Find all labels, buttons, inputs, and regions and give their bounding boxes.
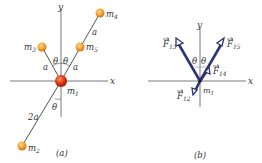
label-m3: m3 <box>24 42 36 53</box>
origin-dot-b <box>198 79 201 82</box>
caption-b: (b) <box>194 150 206 160</box>
y-axis-label-a: y <box>57 2 64 12</box>
length-a-upper: a <box>92 27 97 37</box>
label-m2: m2 <box>28 143 40 154</box>
label-f14: F14 <box>212 66 227 77</box>
label-m1-b: m1 <box>203 86 214 96</box>
arrowhead-f12 <box>192 88 197 95</box>
theta-left-a: θ <box>53 56 58 66</box>
label-f12: F12 <box>176 91 191 102</box>
label-m5: m5 <box>86 42 98 53</box>
arrowhead-f15 <box>217 38 224 46</box>
caption-a: (a) <box>56 148 68 158</box>
y-axis-label-b: y <box>196 20 203 30</box>
arrowhead-f14 <box>205 67 210 74</box>
arrowhead-f13 <box>176 38 183 46</box>
label-m4: m4 <box>106 9 118 20</box>
label-f15: F15 <box>226 39 241 50</box>
figure: x y θ θ θ a a a 2a m4 m5 m3 m1 m2 (a) x … <box>0 0 262 163</box>
theta-right-a: θ <box>63 56 68 66</box>
mass-m4 <box>96 9 105 18</box>
x-axis-label-b: x <box>248 76 253 86</box>
theta-right-b: θ <box>201 56 206 66</box>
length-a-right: a <box>73 62 78 72</box>
theta-left-b: θ <box>192 56 197 66</box>
panel-b: x y θ θ F13 F15 F14 F12 m1 (b) <box>148 20 253 160</box>
theta-lower-a: θ <box>52 102 57 112</box>
length-a-left: a <box>43 62 48 72</box>
label-f13: F13 <box>162 39 177 50</box>
mass-m2 <box>18 142 27 151</box>
length-2a: 2a <box>27 112 38 122</box>
mass-m3 <box>38 43 47 52</box>
mass-m5 <box>76 43 85 52</box>
panel-a: x y θ θ θ a a a 2a m4 m5 m3 m1 m2 (a) <box>10 2 118 158</box>
mass-m1 <box>55 75 67 87</box>
label-m1: m1 <box>67 86 79 97</box>
x-axis-label-a: x <box>110 76 115 86</box>
